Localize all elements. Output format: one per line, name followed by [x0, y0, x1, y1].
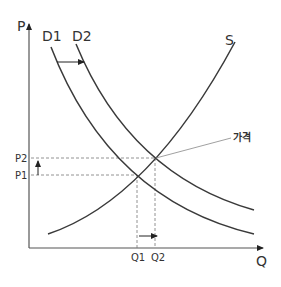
y-axis-label: P — [17, 19, 25, 33]
q1-label: Q1 — [131, 253, 145, 263]
d2-label: D2 — [72, 29, 92, 43]
demand-curve-d2 — [76, 44, 254, 210]
x-axis-label: Q — [256, 254, 267, 268]
supply-curve-s — [48, 42, 235, 234]
p1-label: P1 — [15, 171, 27, 181]
s-label: S — [225, 33, 234, 47]
d1-label: D1 — [42, 29, 62, 43]
annotation-leader — [156, 138, 231, 158]
annotation-label: 가격 — [233, 133, 251, 143]
q2-label: Q2 — [151, 253, 165, 263]
p2-label: P2 — [15, 154, 27, 164]
demand-curve-d1 — [51, 47, 254, 234]
